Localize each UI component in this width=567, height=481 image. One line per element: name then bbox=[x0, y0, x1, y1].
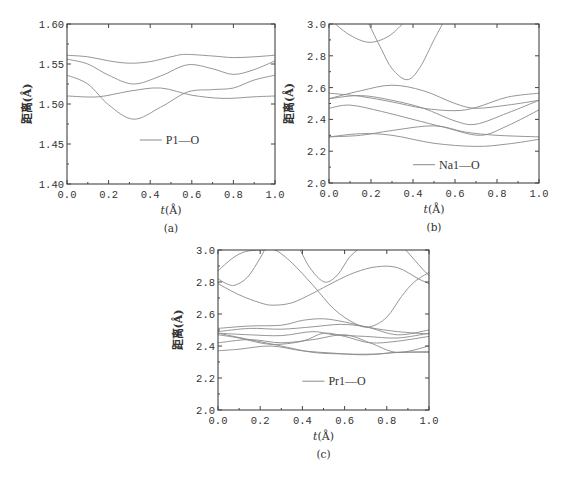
data-line bbox=[369, 24, 443, 80]
legend: Na1—O bbox=[413, 158, 480, 172]
y-tick-label: 2.8 bbox=[307, 51, 326, 63]
y-tick-label: 2.4 bbox=[307, 114, 326, 126]
y-tick-label: 1.40 bbox=[39, 179, 64, 191]
subfigure-caption: (a) bbox=[164, 222, 178, 234]
data-line bbox=[218, 319, 429, 334]
x-tick-label: 1.0 bbox=[530, 188, 549, 200]
y-tick-label: 1.60 bbox=[39, 19, 64, 31]
x-tick-label: 0.6 bbox=[446, 188, 465, 200]
y-axis-title: 距离(Å) bbox=[20, 84, 34, 125]
plot-frame bbox=[67, 24, 275, 184]
y-tick-label: 2.0 bbox=[307, 178, 326, 190]
legend-label: Pr1—O bbox=[328, 374, 366, 388]
y-tick-label: 2.6 bbox=[307, 83, 326, 95]
y-tick-label: 2.4 bbox=[196, 341, 215, 353]
y-axis-title: 距离(Å) bbox=[282, 83, 296, 124]
series-group bbox=[67, 54, 275, 119]
data-line bbox=[67, 88, 275, 99]
y-tick-label: 2.0 bbox=[196, 405, 215, 417]
x-tick-label: 0.2 bbox=[362, 188, 381, 200]
y-tick-label: 1.50 bbox=[39, 99, 64, 111]
legend-label: P1—O bbox=[166, 133, 200, 147]
legend: Pr1—O bbox=[302, 374, 366, 388]
chart-c: 0.00.20.40.60.81.02.02.22.42.62.83.0距离(Å… bbox=[171, 245, 438, 460]
x-tick-label: 1.0 bbox=[420, 415, 439, 427]
x-tick-label: 0.6 bbox=[182, 189, 201, 201]
data-line bbox=[329, 96, 539, 125]
series-group bbox=[329, 24, 539, 146]
x-tick-label: 0.2 bbox=[99, 189, 118, 201]
chart-b: 0.00.20.40.60.81.02.02.22.42.62.83.0距离(Å… bbox=[282, 19, 548, 233]
x-tick-label: 0.4 bbox=[141, 189, 160, 201]
x-tick-label: 0.2 bbox=[251, 415, 270, 427]
data-line bbox=[406, 250, 429, 276]
subfigure-caption: (b) bbox=[427, 221, 442, 233]
y-tick-label: 2.2 bbox=[196, 373, 215, 385]
x-axis-title: t(Å) bbox=[313, 429, 334, 443]
data-line bbox=[218, 266, 429, 305]
data-line bbox=[67, 54, 275, 63]
x-tick-label: 0.6 bbox=[335, 415, 354, 427]
data-line bbox=[218, 333, 429, 354]
figure: 0.00.20.40.60.81.01.401.451.501.551.60距离… bbox=[0, 0, 567, 481]
data-line bbox=[218, 335, 429, 353]
legend-label: Na1—O bbox=[439, 158, 480, 172]
data-line bbox=[329, 126, 539, 137]
y-tick-label: 1.55 bbox=[39, 59, 64, 71]
x-tick-label: 0.4 bbox=[293, 415, 312, 427]
x-tick-label: 0.8 bbox=[224, 189, 243, 201]
data-line bbox=[335, 24, 402, 42]
data-line bbox=[218, 250, 264, 286]
y-tick-label: 1.45 bbox=[39, 139, 64, 151]
y-tick-label: 2.8 bbox=[196, 277, 215, 289]
y-axis-title: 距离(Å) bbox=[171, 310, 185, 351]
plot-frame bbox=[329, 24, 539, 183]
x-axis-title: t(Å) bbox=[161, 203, 182, 217]
subfigure-caption: (c) bbox=[316, 448, 330, 460]
data-line bbox=[300, 250, 357, 282]
y-tick-label: 2.2 bbox=[307, 146, 326, 158]
x-tick-label: 1.0 bbox=[266, 189, 285, 201]
legend: P1—O bbox=[140, 133, 200, 147]
x-axis-title: t(Å) bbox=[424, 202, 445, 216]
data-line bbox=[262, 249, 429, 327]
y-tick-label: 3.0 bbox=[307, 19, 326, 31]
x-tick-label: 0.4 bbox=[404, 188, 423, 200]
series-group bbox=[218, 249, 429, 355]
data-line bbox=[67, 59, 275, 84]
x-tick-label: 0.8 bbox=[488, 188, 507, 200]
y-tick-label: 2.6 bbox=[196, 309, 215, 321]
x-tick-label: 0.8 bbox=[377, 415, 396, 427]
y-tick-label: 3.0 bbox=[196, 245, 215, 257]
chart-a: 0.00.20.40.60.81.01.401.451.501.551.60距离… bbox=[20, 19, 284, 234]
